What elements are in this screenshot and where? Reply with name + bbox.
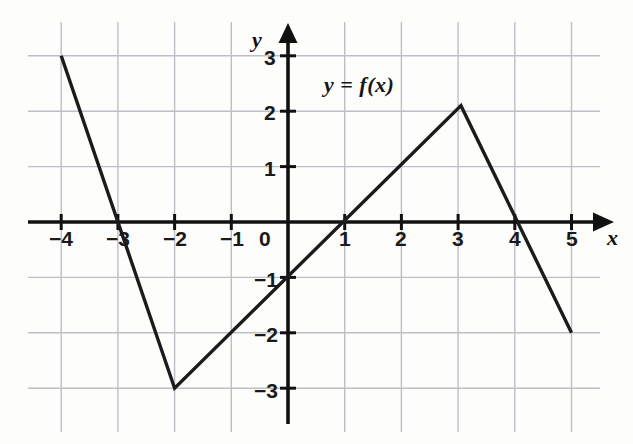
y-tick-label--1: −1: [254, 269, 278, 290]
x-tick-label-0: 0: [259, 228, 271, 249]
x-tick-label-1: 1: [339, 228, 351, 249]
y-tick-label-1: 1: [264, 158, 276, 179]
y-axis-label: y: [252, 29, 262, 51]
y-tick-label--2: −2: [254, 324, 278, 345]
y-tick-label-2: 2: [264, 102, 276, 123]
x-tick-label-3: 3: [452, 228, 464, 249]
y-tick-label-3: 3: [264, 47, 276, 68]
graph-figure: −4 −3 −2 −1 0 1 2 3 4 5 3 2 1 −1 −2 −3 y…: [0, 0, 633, 444]
x-tick-label--4: −4: [49, 228, 73, 249]
coordinate-plane-svg: [0, 0, 633, 444]
x-axis-label: x: [607, 227, 618, 249]
y-tick-label--3: −3: [254, 380, 278, 401]
x-tick-label--1: −1: [220, 228, 244, 249]
x-tick-label-4: 4: [509, 228, 521, 249]
curve-equation-label: y = f(x): [324, 74, 394, 96]
x-tick-label-2: 2: [395, 228, 407, 249]
x-tick-label-5: 5: [566, 228, 578, 249]
x-tick-label--2: −2: [163, 228, 187, 249]
x-tick-label--3: −3: [106, 228, 130, 249]
